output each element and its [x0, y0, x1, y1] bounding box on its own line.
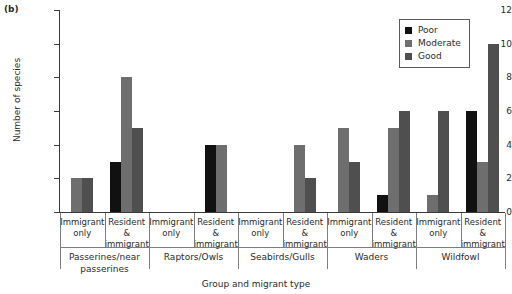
legend-label: Poor — [418, 26, 438, 35]
category-separator — [194, 213, 195, 247]
group-label: Seabirds/Gulls — [238, 247, 327, 277]
y-axis-title: Number of species — [12, 35, 22, 165]
bar-group — [60, 10, 105, 212]
bar-moderate — [388, 128, 399, 212]
y-tick-10 — [54, 44, 59, 45]
group-axis-band: Passerines/nearpasserinesRaptors/OwlsSea… — [60, 247, 505, 277]
bar-moderate — [294, 145, 305, 212]
category-separator — [60, 213, 61, 247]
legend-item-good[interactable]: Good — [405, 50, 461, 63]
category-separator — [105, 213, 106, 247]
bar-poor — [205, 145, 216, 212]
group-label: Wildfowl — [416, 247, 505, 277]
legend-swatch-icon — [405, 53, 412, 60]
legend-swatch-icon — [405, 40, 412, 47]
category-label: Resident &immigrant — [105, 213, 150, 247]
bar-poor — [466, 111, 477, 212]
category-label: Resident &immigrant — [194, 213, 239, 247]
group-label: Raptors/Owls — [149, 247, 238, 277]
group-label: Waders — [327, 247, 416, 277]
bar-good — [349, 162, 360, 213]
category-label: Resident &immigrant — [372, 213, 417, 247]
y-tick-2 — [54, 178, 59, 179]
group-separator — [327, 247, 328, 269]
category-label: Immigrantonly — [327, 213, 372, 247]
panel-label: (b) — [4, 4, 19, 14]
bar-poor — [110, 162, 121, 213]
bar-group — [283, 10, 328, 212]
x-axis-title: Group and migrant type — [0, 279, 512, 289]
bar-group — [194, 10, 239, 212]
y-tick-8 — [54, 77, 59, 78]
y-tick-6 — [54, 111, 59, 112]
category-separator — [238, 213, 239, 247]
category-label: Resident &immigrant — [461, 213, 506, 247]
y-tick-12 — [54, 10, 59, 11]
bar-moderate — [427, 195, 438, 212]
bar-moderate — [216, 145, 227, 212]
legend-label: Good — [418, 52, 442, 61]
category-label: Immigrantonly — [149, 213, 194, 247]
category-separator — [149, 213, 150, 247]
bar-group — [327, 10, 372, 212]
category-separator — [505, 213, 506, 247]
bar-good — [82, 178, 93, 212]
category-separator — [327, 213, 328, 247]
group-separator — [149, 247, 150, 269]
category-separator — [416, 213, 417, 247]
y-tick-0 — [54, 212, 59, 213]
chart-legend: PoorModerateGood — [399, 19, 470, 68]
category-label: Immigrantonly — [238, 213, 283, 247]
bar-moderate — [71, 178, 82, 212]
bar-moderate — [338, 128, 349, 212]
category-separator — [372, 213, 373, 247]
bar-good — [305, 178, 316, 212]
bar-good — [488, 44, 499, 212]
group-separator — [238, 247, 239, 269]
legend-item-poor[interactable]: Poor — [405, 24, 461, 37]
bar-poor — [377, 195, 388, 212]
bar-moderate — [477, 162, 488, 213]
group-label: Passerines/nearpasserines — [60, 247, 149, 277]
group-separator — [505, 247, 506, 269]
category-label: Immigrantonly — [60, 213, 105, 247]
category-separator — [283, 213, 284, 247]
bar-moderate — [121, 77, 132, 212]
category-separator — [461, 213, 462, 247]
group-separator — [60, 247, 61, 269]
bar-group — [238, 10, 283, 212]
bar-good — [438, 111, 449, 212]
y-tick-4 — [54, 145, 59, 146]
bar-group — [105, 10, 150, 212]
legend-swatch-icon — [405, 27, 412, 34]
bar-good — [132, 128, 143, 212]
legend-item-moderate[interactable]: Moderate — [405, 37, 461, 50]
bar-group — [149, 10, 194, 212]
group-separator — [416, 247, 417, 269]
legend-label: Moderate — [418, 39, 461, 48]
category-label: Immigrantonly — [416, 213, 461, 247]
category-label: Resident &immigrant — [283, 213, 328, 247]
bar-good — [399, 111, 410, 212]
